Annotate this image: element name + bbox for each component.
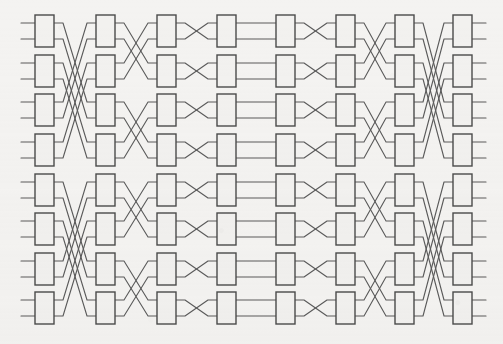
switch-box-stage6-row5[interactable] [336, 174, 355, 206]
link-stage5-7 [295, 142, 336, 158]
link-stage6-2 [355, 23, 395, 63]
switch-box-stage3-row4[interactable] [157, 134, 176, 166]
switch-box-stage1-row4[interactable] [35, 134, 54, 166]
link-stage2-2 [115, 23, 157, 63]
link-stage5-9 [295, 182, 336, 198]
switch-box-stage5-row5[interactable] [276, 174, 295, 206]
link-stage3-9 [176, 182, 217, 198]
switch-box-stage1-row6[interactable] [35, 213, 54, 245]
link-stage6-3 [355, 39, 395, 79]
switch-box-stage4-row3[interactable] [217, 94, 236, 126]
switch-box-stage4-row5[interactable] [217, 174, 236, 206]
switch-box-stage5-row2[interactable] [276, 55, 295, 87]
switch-box-stage6-row3[interactable] [336, 94, 355, 126]
switch-box-stage8-row5[interactable] [453, 174, 472, 206]
switch-box-stage3-row2[interactable] [157, 55, 176, 87]
switch-box-stage3-row5[interactable] [157, 174, 176, 206]
switch-box-stage3-row8[interactable] [157, 292, 176, 324]
switch-box-stage2-row7[interactable] [96, 253, 115, 285]
link-stage5-5 [295, 102, 336, 118]
switch-box-stage7-row4[interactable] [395, 134, 414, 166]
link-stage6-14 [355, 261, 395, 300]
switch-box-stage7-row5[interactable] [395, 174, 414, 206]
link-stage6-11 [355, 198, 395, 237]
switch-box-stage8-row7[interactable] [453, 253, 472, 285]
link-stage6-7 [355, 118, 395, 158]
switch-box-stage3-row6[interactable] [157, 213, 176, 245]
switch-box-stage1-row7[interactable] [35, 253, 54, 285]
link-stage5-11 [295, 221, 336, 237]
link-stage6-15 [355, 277, 395, 316]
network-diagram-figure [0, 0, 503, 344]
link-stage2-14 [115, 261, 157, 300]
link-stage3-1 [176, 23, 217, 39]
switch-box-stage6-row8[interactable] [336, 292, 355, 324]
switch-box-stage7-row6[interactable] [395, 213, 414, 245]
switch-box-stage7-row2[interactable] [395, 55, 414, 87]
link-stage3-3 [176, 63, 217, 79]
switch-box-stage8-row1[interactable] [453, 15, 472, 47]
link-stage5-15 [295, 300, 336, 316]
switch-box-stage5-row8[interactable] [276, 292, 295, 324]
switch-box-stage2-row8[interactable] [96, 292, 115, 324]
link-stage5-1 [295, 23, 336, 39]
link-stage3-15 [176, 300, 217, 316]
terminal-stub-layer [21, 23, 486, 316]
switch-box-stage8-row8[interactable] [453, 292, 472, 324]
link-stage6-6 [355, 102, 395, 142]
switch-box-stage2-row4[interactable] [96, 134, 115, 166]
switch-box-stage5-row4[interactable] [276, 134, 295, 166]
switch-box-stage2-row6[interactable] [96, 213, 115, 245]
switch-box-stage4-row8[interactable] [217, 292, 236, 324]
switch-box-stage7-row1[interactable] [395, 15, 414, 47]
link-stage2-6 [115, 102, 157, 142]
switch-box-layer [35, 15, 472, 324]
switch-box-stage5-row3[interactable] [276, 94, 295, 126]
link-stage3-13 [176, 261, 217, 277]
switch-box-stage1-row3[interactable] [35, 94, 54, 126]
switch-box-stage7-row8[interactable] [395, 292, 414, 324]
link-stage2-11 [115, 198, 157, 237]
link-stage2-3 [115, 39, 157, 79]
link-stage3-11 [176, 221, 217, 237]
switch-box-stage4-row7[interactable] [217, 253, 236, 285]
switch-box-stage3-row7[interactable] [157, 253, 176, 285]
switch-box-stage6-row4[interactable] [336, 134, 355, 166]
switch-box-stage2-row1[interactable] [96, 15, 115, 47]
switch-box-stage2-row2[interactable] [96, 55, 115, 87]
switch-box-stage7-row3[interactable] [395, 94, 414, 126]
link-stage2-15 [115, 277, 157, 316]
switch-box-stage1-row2[interactable] [35, 55, 54, 87]
link-stage5-13 [295, 261, 336, 277]
switch-box-stage6-row6[interactable] [336, 213, 355, 245]
switch-box-stage1-row5[interactable] [35, 174, 54, 206]
network-diagram-canvas [0, 0, 503, 344]
switch-box-stage6-row7[interactable] [336, 253, 355, 285]
link-stage5-3 [295, 63, 336, 79]
switch-box-stage8-row6[interactable] [453, 213, 472, 245]
switch-box-stage5-row7[interactable] [276, 253, 295, 285]
switch-box-stage3-row1[interactable] [157, 15, 176, 47]
switch-box-stage1-row1[interactable] [35, 15, 54, 47]
switch-box-stage3-row3[interactable] [157, 94, 176, 126]
switch-box-stage5-row1[interactable] [276, 15, 295, 47]
link-stage2-7 [115, 118, 157, 158]
switch-box-stage2-row3[interactable] [96, 94, 115, 126]
link-stage2-10 [115, 182, 157, 221]
switch-box-stage4-row6[interactable] [217, 213, 236, 245]
switch-box-stage2-row5[interactable] [96, 174, 115, 206]
switch-box-stage6-row1[interactable] [336, 15, 355, 47]
switch-box-stage8-row3[interactable] [453, 94, 472, 126]
link-stage3-7 [176, 142, 217, 158]
link-stage6-10 [355, 182, 395, 221]
switch-box-stage1-row8[interactable] [35, 292, 54, 324]
switch-box-stage4-row2[interactable] [217, 55, 236, 87]
switch-box-stage4-row1[interactable] [217, 15, 236, 47]
switch-box-stage5-row6[interactable] [276, 213, 295, 245]
switch-box-stage6-row2[interactable] [336, 55, 355, 87]
switch-box-stage8-row4[interactable] [453, 134, 472, 166]
link-stage3-5 [176, 102, 217, 118]
switch-box-stage4-row4[interactable] [217, 134, 236, 166]
switch-box-stage8-row2[interactable] [453, 55, 472, 87]
switch-box-stage7-row7[interactable] [395, 253, 414, 285]
